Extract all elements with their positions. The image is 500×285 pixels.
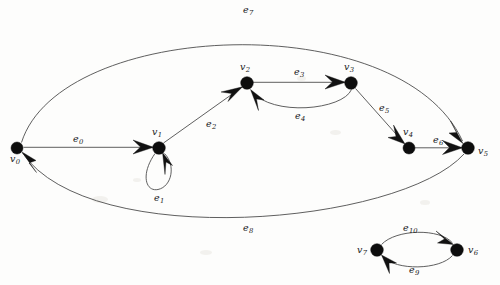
edge-label-e5: e5: [379, 102, 389, 113]
edge-e8-path: [23, 153, 465, 218]
vertex-label-v5: v5: [478, 145, 488, 156]
vertex-v2[interactable]: [241, 77, 254, 90]
vertex-v3[interactable]: [345, 77, 358, 90]
edge-label-e1: e1: [154, 192, 164, 203]
vertex-v5[interactable]: [462, 142, 475, 155]
edge-label-e9: e9: [409, 264, 419, 275]
edge-e7: [22, 45, 464, 144]
edge-label-e3: e3: [294, 66, 304, 77]
edge-e8: [22, 152, 464, 218]
edge-e5: [356, 89, 406, 145]
edge-e8-arrowhead: [22, 152, 37, 173]
edge-e2: [164, 87, 243, 143]
edge-e2-path: [164, 88, 242, 144]
edge-label-e10: e10: [403, 222, 417, 233]
vertex-v1[interactable]: [153, 142, 166, 155]
vertex-label-v4: v4: [403, 126, 413, 137]
edge-e7-path: [22, 45, 463, 143]
edge-e4-path: [252, 90, 352, 108]
vertex-label-v0: v0: [10, 153, 20, 164]
edge-e1: [146, 153, 172, 190]
edge-label-e6: e6: [433, 134, 443, 145]
edge-label-e4: e4: [295, 110, 305, 121]
vertex-label-v1: v1: [152, 126, 162, 137]
edge-label-e7: e7: [243, 4, 253, 15]
vertex-v4[interactable]: [403, 142, 415, 154]
edge-e0: [24, 140, 154, 154]
edge-e10-arrowhead: [436, 231, 454, 245]
vertex-label-v3: v3: [344, 61, 354, 72]
vertex-label-v7: v7: [357, 244, 367, 255]
edge-label-e2: e2: [206, 118, 216, 129]
vertex-label-v2: v2: [240, 61, 250, 72]
edge-e4: [251, 90, 352, 111]
directed-graph-figure: v0 v1 v2 v3 v4 v5 v6 v7 e0 e1 e2 e3 e4 e…: [0, 0, 500, 285]
edge-label-e8: e8: [243, 222, 253, 233]
edge-e7-arrowhead: [449, 121, 463, 144]
vertex-v7[interactable]: [371, 244, 384, 257]
vertex-v6[interactable]: [451, 244, 464, 257]
edge-label-e0: e0: [73, 133, 83, 144]
vertex-label-v6: v6: [468, 244, 478, 255]
edge-e9-arrowhead: [382, 255, 397, 274]
